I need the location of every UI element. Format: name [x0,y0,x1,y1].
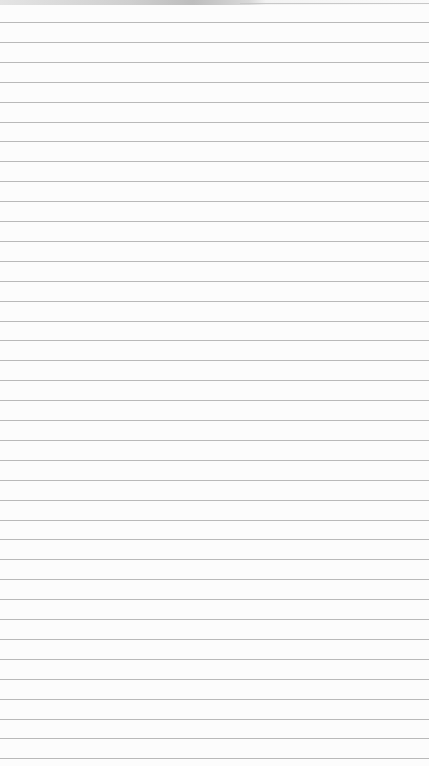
ruled-line [0,539,429,540]
ruled-line [0,400,429,401]
ruled-line [0,22,429,23]
ruled-line [0,181,429,182]
ruled-line [0,619,429,620]
ruled-line [0,440,429,441]
lined-paper-sheet [0,0,429,766]
ruled-line [0,261,429,262]
ruled-line [0,141,429,142]
ruled-line [0,758,429,759]
ruled-line [0,639,429,640]
ruled-line [0,480,429,481]
ruled-line [0,738,429,739]
ruled-line [0,599,429,600]
ruled-line [0,241,429,242]
ruled-line [0,579,429,580]
ruled-line [0,301,429,302]
ruled-line [0,42,429,43]
ruled-line [0,122,429,123]
ruled-line [0,420,429,421]
ruled-line [0,321,429,322]
ruled-line [0,500,429,501]
ruled-line [0,161,429,162]
ruled-line [0,460,429,461]
ruled-line [0,719,429,720]
ruled-line [0,340,429,341]
ruled-line [0,559,429,560]
ruled-line [0,62,429,63]
ruled-line [0,679,429,680]
ruled-line [0,380,429,381]
paper-top-edge-line [240,3,429,4]
ruled-line [0,201,429,202]
ruled-line [0,699,429,700]
ruled-line [0,520,429,521]
ruled-line [0,659,429,660]
ruled-line [0,221,429,222]
ruled-line [0,82,429,83]
ruled-line [0,102,429,103]
ruled-line [0,281,429,282]
ruled-line [0,360,429,361]
